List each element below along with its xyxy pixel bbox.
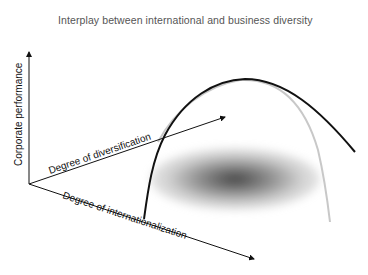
vertical-axis-label: Corporate performance <box>13 62 24 166</box>
internationalization-performance-curve <box>144 79 355 219</box>
diagram-canvas: Corporate performance Degree of diversif… <box>0 0 368 275</box>
internationalization-axis-label: Degree of internationalization <box>61 189 188 241</box>
diversification-axis-label: Degree of diversification <box>47 131 152 176</box>
diversification-axis <box>29 117 225 184</box>
